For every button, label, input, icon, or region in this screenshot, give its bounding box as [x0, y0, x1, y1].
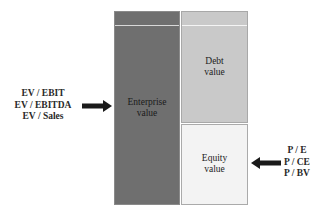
enterprise-value-box: Enterprise value [114, 11, 180, 205]
multiple-p-bv: P / BV [276, 168, 318, 180]
label-line: value [182, 67, 247, 78]
multiple-ev-ebit: EV / EBIT [4, 88, 82, 100]
divider-line [115, 25, 179, 26]
enterprise-value-label: Enterprise value [115, 97, 179, 119]
right-arrow-icon [82, 100, 112, 112]
label-line: value [182, 164, 247, 175]
multiple-p-ce: P / CE [276, 157, 318, 169]
equity-value-label: Equity value [182, 153, 247, 175]
enterprise-multiples-list: EV / EBIT EV / EBITDA EV / Sales [4, 88, 82, 123]
multiple-ev-ebitda: EV / EBITDA [4, 100, 82, 112]
label-line: Enterprise [115, 97, 179, 108]
equity-multiples-list: P / E P / CE P / BV [276, 145, 318, 180]
label-line: Equity [182, 153, 247, 164]
multiple-p-e: P / E [276, 145, 318, 157]
label-line: value [115, 108, 179, 119]
divider-line [182, 25, 247, 26]
debt-value-label: Debt value [182, 56, 247, 78]
equity-value-box: Equity value [181, 124, 248, 205]
label-line: Debt [182, 56, 247, 67]
multiple-ev-sales: EV / Sales [4, 111, 82, 123]
debt-value-box: Debt value [181, 11, 248, 123]
